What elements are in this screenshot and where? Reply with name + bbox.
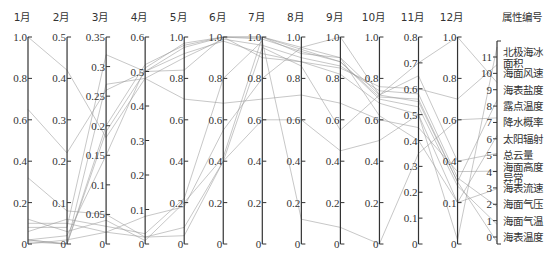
tick-label: 0 (295, 238, 301, 250)
tick-label: 1.0 (13, 31, 27, 43)
tick-label: 0.4 (130, 100, 144, 112)
tick-label: 0.5 (404, 109, 418, 121)
tick-label: 0.8 (365, 72, 379, 84)
tick-label: 0.8 (404, 31, 418, 43)
axis-title: 4月 (131, 11, 148, 23)
axis-10: 10月00.20.40.60.81.0 (362, 11, 385, 250)
tick-label: 0.6 (130, 31, 144, 43)
attribute-tick-label: 10 (481, 67, 493, 79)
attribute-name: 海表流速 (503, 182, 544, 194)
attribute-name: 海面风速 (503, 67, 544, 79)
tick-label: 0.2 (404, 186, 418, 198)
axis-title: 6月 (209, 11, 226, 23)
tick-label: 0.1 (91, 179, 105, 191)
attribute-tick-label: 1 (487, 215, 493, 227)
attribute-name: 露点温度 (503, 100, 544, 112)
attribute-name-cont: 异常 (503, 172, 523, 184)
tick-label: 1.0 (209, 31, 223, 43)
attribute-axis: 属性编号0海表温度1海面气温2海面气压3海表流速4海面高度异常5总云量6太阳辐射… (481, 11, 544, 244)
axis-title: 7月 (248, 11, 265, 23)
axis-title: 9月 (326, 11, 343, 23)
tick-label: 0.3 (404, 160, 418, 172)
tick-label: 0.4 (52, 72, 66, 84)
tick-label: 0.2 (91, 120, 105, 132)
axis-title: 8月 (287, 11, 304, 23)
tick-label: 0.2 (326, 197, 340, 209)
tick-label: 0.2 (13, 197, 27, 209)
tick-label: 0.2 (169, 197, 183, 209)
attribute-tick-label: 4 (487, 166, 493, 178)
tick-label: 0.05 (86, 208, 106, 220)
tick-label: 0.5 (52, 31, 66, 43)
axis-title: 12月 (440, 11, 463, 23)
tick-label: 1.0 (169, 31, 183, 43)
tick-label: 0.2 (365, 197, 379, 209)
tick-label: 0.6 (169, 114, 183, 126)
tick-label: 0.25 (86, 90, 106, 102)
attribute-tick-label: 7 (487, 116, 493, 128)
tick-label: 0 (139, 238, 145, 250)
tick-label: 0 (334, 238, 340, 250)
tick-label: 0.1 (130, 204, 144, 216)
tick-label: 0.8 (326, 72, 340, 84)
tick-label: 1.0 (326, 31, 340, 43)
tick-label: 0.2 (209, 197, 223, 209)
tick-label: 0.2 (248, 197, 262, 209)
tick-label: 0 (451, 238, 457, 250)
attribute-tick-label: 6 (487, 133, 493, 145)
tick-label: 0.6 (404, 83, 418, 95)
attribute-name: 海表温度 (503, 231, 544, 243)
tick-label: 0.1 (443, 197, 457, 209)
tick-label: 0.4 (169, 155, 183, 167)
tick-label: 0 (373, 238, 379, 250)
attribute-name-cont: 面积 (503, 57, 524, 69)
tick-label: 0.1 (404, 212, 418, 224)
tick-label: 0.4 (365, 155, 379, 167)
attribute-tick-label: 8 (487, 100, 493, 112)
attribute-name: 总云量 (503, 149, 534, 161)
tick-label: 0.6 (443, 114, 457, 126)
axis-title: 5月 (170, 11, 187, 23)
attribute-tick-label: 0 (487, 231, 493, 243)
tick-label: 0.7 (404, 57, 418, 69)
tick-label: 0.3 (52, 114, 66, 126)
tick-label: 0.5 (130, 66, 144, 78)
tick-label: 0.6 (13, 114, 27, 126)
axis-title: 1月 (14, 11, 31, 23)
tick-label: 0.1 (52, 197, 66, 209)
attribute-name: 太阳辐射 (503, 133, 544, 145)
attribute-name: 海表盐度 (503, 84, 544, 96)
chart-svg: 1月00.20.40.60.81.02月00.10.20.30.40.53月00… (0, 0, 556, 267)
axis-title: 2月 (53, 11, 70, 23)
attribute-tick-label: 2 (487, 198, 493, 210)
tick-label: 0 (22, 238, 28, 250)
tick-label: 0.6 (209, 114, 223, 126)
tick-label: 0.6 (326, 114, 340, 126)
tick-label: 0.3 (91, 61, 105, 73)
tick-label: 0.8 (443, 72, 457, 84)
axis-9: 9月00.20.40.60.81.0 (326, 11, 345, 250)
tick-label: 1.0 (365, 31, 379, 43)
tick-label: 0.2 (52, 155, 66, 167)
tick-label: 0.8 (169, 72, 183, 84)
tick-label: 0.6 (248, 114, 262, 126)
tick-label: 0 (412, 238, 418, 250)
tick-label: 0.6 (287, 114, 301, 126)
tick-label: 0.4 (404, 135, 418, 147)
tick-label: 0.4 (326, 155, 340, 167)
tick-label: 0.15 (86, 149, 106, 161)
tick-label: 0.8 (248, 72, 262, 84)
tick-label: 0.4 (287, 155, 301, 167)
attribute-tick-label: 5 (487, 149, 493, 161)
tick-label: 0.6 (365, 114, 379, 126)
tick-label: 0 (178, 238, 184, 250)
tick-label: 0 (256, 238, 262, 250)
attribute-name: 海面气压 (503, 198, 544, 210)
tick-label: 0.4 (248, 155, 262, 167)
attribute-name: 海面气温 (503, 215, 544, 227)
tick-label: 0.2 (287, 197, 301, 209)
tick-label: 0 (217, 238, 223, 250)
tick-label: 0 (61, 238, 67, 250)
axis-2: 2月00.10.20.30.40.5 (52, 11, 71, 250)
axis-1: 1月00.20.40.60.81.0 (13, 11, 32, 250)
